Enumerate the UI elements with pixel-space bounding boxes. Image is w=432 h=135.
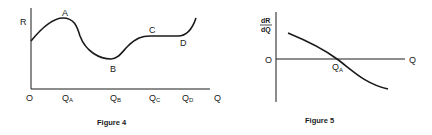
figure-5-y-label: dR dQ <box>260 17 272 34</box>
svg-text:dQ: dQ <box>261 26 271 34</box>
svg-text:dR: dR <box>261 17 270 24</box>
figure-4-x-label: Q <box>214 93 221 103</box>
point-b-label: B <box>110 64 116 74</box>
svg-text:Q: Q <box>62 93 69 103</box>
tick-qa-crossing: Q A <box>332 62 343 73</box>
point-c-label: C <box>149 25 156 35</box>
figure-5: dR dQ O Q A Q Figure 5 <box>260 12 416 125</box>
figure-4-origin-label: O <box>26 93 33 103</box>
svg-text:A: A <box>69 97 73 103</box>
svg-text:Q: Q <box>182 93 189 103</box>
figure-4-y-label: R <box>20 17 27 27</box>
figure-5-caption: Figure 5 <box>305 116 334 125</box>
figure-5-origin-label: O <box>265 55 272 65</box>
point-a-label: A <box>62 8 68 18</box>
tick-qa: Q A <box>62 93 73 103</box>
svg-text:A: A <box>339 67 343 73</box>
figure-4-revenue-curve <box>31 18 196 59</box>
figure-4: R A B C D O Q A Q B Q C Q D Q Figure 4 <box>20 8 221 127</box>
svg-text:Q: Q <box>110 93 117 103</box>
tick-qc: Q C <box>149 93 161 103</box>
figure-5-x-label: Q <box>409 55 416 65</box>
diagram-canvas: R A B C D O Q A Q B Q C Q D Q Figure 4 d… <box>0 0 432 135</box>
point-d-label: D <box>180 38 187 48</box>
svg-text:B: B <box>117 97 121 103</box>
tick-qb: Q B <box>110 93 121 103</box>
tick-qd: Q D <box>182 93 194 103</box>
figure-5-marginal-revenue-curve <box>288 33 388 89</box>
svg-text:Q: Q <box>149 93 156 103</box>
figure-4-caption: Figure 4 <box>97 118 127 127</box>
svg-text:C: C <box>156 97 161 103</box>
svg-text:Q: Q <box>332 62 339 72</box>
svg-text:D: D <box>189 97 194 103</box>
